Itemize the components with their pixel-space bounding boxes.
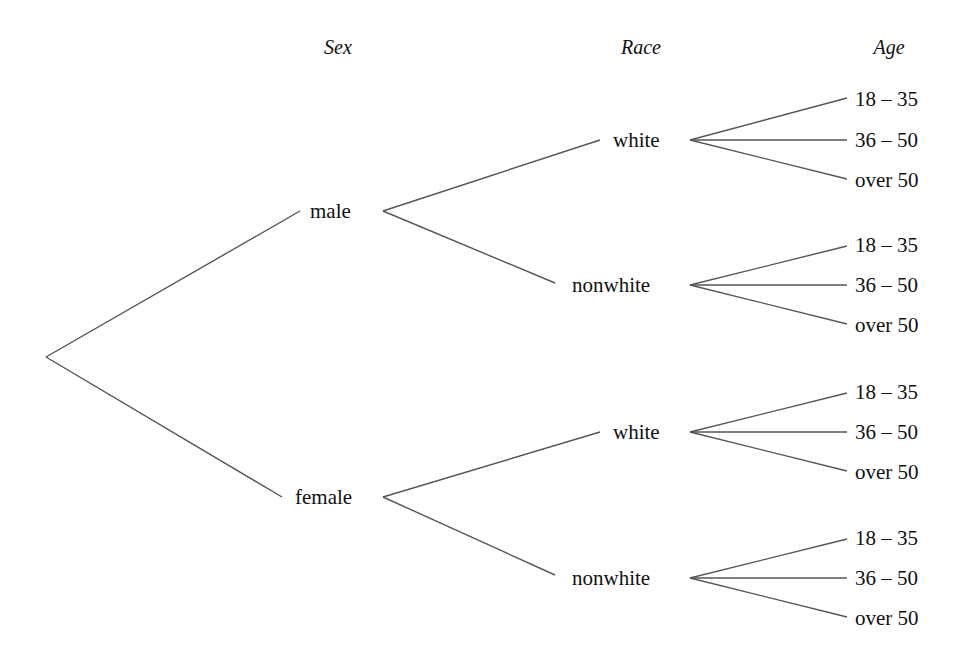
header-race: Race bbox=[621, 35, 661, 59]
leaf-age: 36 – 50 bbox=[855, 128, 918, 152]
node-male-nonwhite: nonwhite bbox=[572, 273, 650, 297]
node-female-white: white bbox=[613, 420, 660, 444]
leaf-age: over 50 bbox=[855, 313, 919, 337]
leaf-age: over 50 bbox=[855, 460, 919, 484]
leaf-age: 18 – 35 bbox=[855, 380, 918, 404]
leaf-age: over 50 bbox=[855, 606, 919, 630]
node-male-white: white bbox=[613, 128, 660, 152]
node-female-nonwhite: nonwhite bbox=[572, 566, 650, 590]
node-female: female bbox=[295, 485, 352, 509]
leaf-age: 36 – 50 bbox=[855, 420, 918, 444]
tree-edges bbox=[0, 0, 974, 662]
leaf-age: 18 – 35 bbox=[855, 526, 918, 550]
node-male: male bbox=[310, 199, 351, 223]
leaf-age: 18 – 35 bbox=[855, 87, 918, 111]
header-age: Age bbox=[873, 35, 904, 59]
leaf-age: 18 – 35 bbox=[855, 233, 918, 257]
header-sex: Sex bbox=[324, 35, 352, 59]
leaf-age: 36 – 50 bbox=[855, 273, 918, 297]
leaf-age: 36 – 50 bbox=[855, 566, 918, 590]
leaf-age: over 50 bbox=[855, 168, 919, 192]
